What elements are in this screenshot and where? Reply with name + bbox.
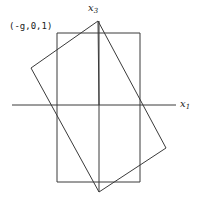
x1-axis-label-subscript: 1 xyxy=(186,103,190,111)
corner-point-label: (-g,0,1) xyxy=(9,22,52,31)
geometry-figure: (-g,0,1) x3 x1 xyxy=(0,0,201,203)
x1-axis-label: x1 xyxy=(180,99,190,111)
x3-axis-label-subscript: 3 xyxy=(94,7,98,15)
x3-axis-label: x3 xyxy=(88,3,98,15)
